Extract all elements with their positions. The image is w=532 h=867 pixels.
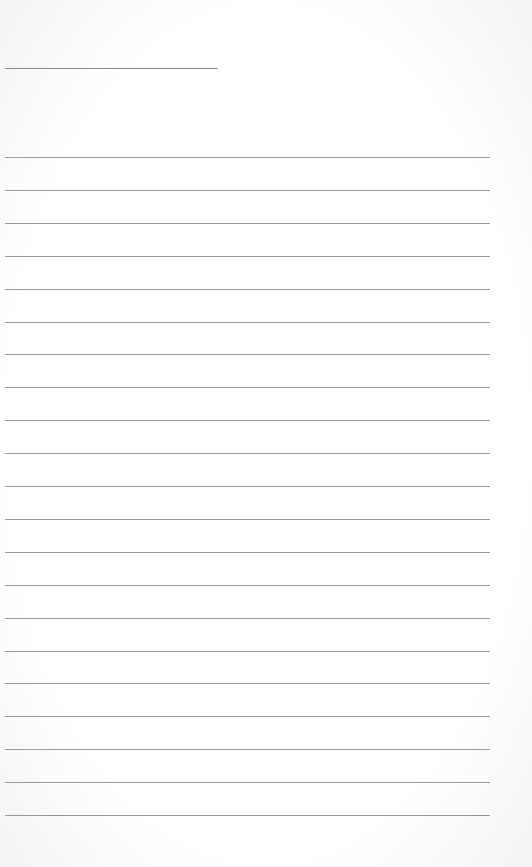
ruled-line — [5, 585, 490, 586]
ruled-line — [5, 651, 490, 652]
ruled-line — [5, 157, 490, 158]
ruled-line — [5, 519, 490, 520]
name-line — [5, 68, 218, 69]
ruled-line — [5, 782, 490, 783]
ruled-line — [5, 486, 490, 487]
ruled-line — [5, 815, 490, 816]
ruled-line — [5, 420, 490, 421]
lined-paper-page — [0, 0, 532, 867]
ruled-line — [5, 190, 490, 191]
ruled-line — [5, 354, 490, 355]
ruled-line — [5, 749, 490, 750]
ruled-line — [5, 322, 490, 323]
ruled-line — [5, 552, 490, 553]
ruled-line — [5, 716, 490, 717]
ruled-line — [5, 223, 490, 224]
ruled-line — [5, 618, 490, 619]
ruled-line — [5, 453, 490, 454]
ruled-line — [5, 256, 490, 257]
ruled-line — [5, 387, 490, 388]
ruled-line — [5, 289, 490, 290]
ruled-line — [5, 683, 490, 684]
